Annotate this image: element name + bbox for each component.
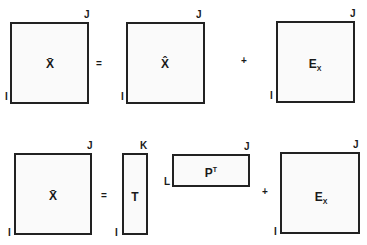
matrix-t-label: T	[122, 190, 148, 204]
dim-i-label: I	[115, 228, 118, 238]
dim-i-label: I	[8, 228, 11, 238]
dim-j-label: J	[196, 10, 202, 20]
equals-operator: =	[96, 59, 102, 69]
dim-l-label: L	[164, 177, 170, 187]
matrix-x-bar-label: X̄	[40, 57, 60, 71]
dim-i-label: I	[270, 91, 273, 101]
matrix-x-bar-label: X̄	[43, 189, 63, 203]
dim-j-label: J	[87, 141, 93, 151]
plus-operator: +	[262, 187, 268, 197]
matrix-e-x-label: EX	[306, 190, 336, 209]
dim-j-label: J	[84, 10, 90, 20]
dim-k-label: K	[140, 141, 147, 151]
equals-operator: =	[101, 191, 107, 201]
dim-j-label: J	[350, 9, 356, 19]
dim-j-label: J	[244, 142, 250, 152]
dim-i-label: I	[121, 92, 124, 102]
plus-operator: +	[241, 56, 247, 66]
matrix-p-transpose-label: PT	[196, 163, 226, 180]
matrix-x-hat-label: X̂	[155, 57, 175, 71]
matrix-e-x-label: EX	[300, 57, 330, 76]
dim-i-label: I	[5, 92, 8, 102]
dim-j-label: J	[353, 140, 359, 150]
dim-i-label: I	[274, 227, 277, 237]
